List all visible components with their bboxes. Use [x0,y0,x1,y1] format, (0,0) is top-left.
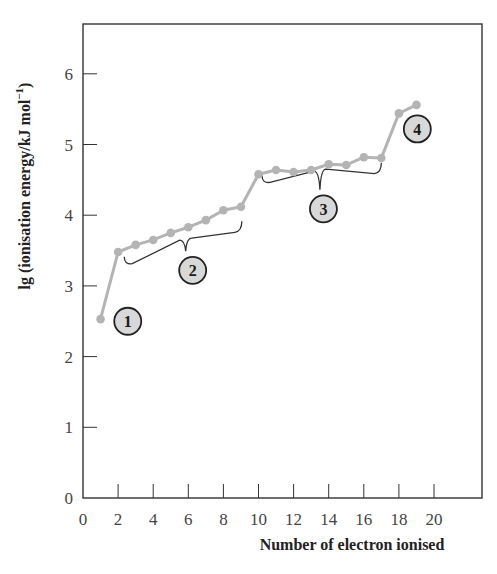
plot-frame [83,24,482,498]
bracket-annotations [124,163,381,264]
data-point-marker [395,109,404,118]
data-point-marker [412,101,421,110]
data-point-marker [96,315,105,324]
y-tick-label: 6 [65,65,74,84]
y-axis-ticks: 0123456 [65,65,98,508]
badge-1: 1 [114,308,141,335]
x-tick-label: 6 [184,510,193,529]
y-axis-title-superscript: −1 [13,88,25,100]
data-point-marker [184,223,193,232]
x-tick-label: 14 [320,510,338,529]
badge-label: 2 [189,262,197,279]
y-tick-label: 0 [65,489,74,508]
chart-canvas: 0123456 02468101214161820 1234 Number of… [0,0,497,574]
x-tick-label: 18 [390,510,407,529]
data-point-marker [272,166,281,175]
plot-border [83,24,482,498]
y-tick-label: 4 [65,206,74,225]
y-axis-title-close: ) [16,83,34,88]
y-tick-label: 5 [65,136,74,155]
data-point-marker [254,170,263,179]
x-tick-label: 2 [114,510,123,529]
y-axis-title: lg (ionisation energy/kJ mol−1) [13,83,34,290]
badge-label: 4 [413,121,421,138]
data-point-marker [202,216,211,225]
data-point-marker [377,154,386,163]
series-line [101,105,417,319]
data-point-marker [324,160,333,169]
badge-3: 3 [310,195,337,222]
data-point-marker [342,161,351,170]
numbered-badges: 1234 [114,115,431,334]
x-tick-label: 8 [219,510,228,529]
badge-4: 4 [404,115,431,142]
x-tick-label: 20 [426,510,443,529]
x-tick-label: 10 [250,510,267,529]
y-tick-label: 1 [65,418,74,437]
data-point-marker [360,153,369,162]
x-tick-label: 4 [149,510,158,529]
x-tick-label: 12 [285,510,302,529]
y-axis-title-main: lg (ionisation energy/kJ mol [16,99,34,289]
y-tick-label: 3 [65,277,74,296]
y-tick-label: 2 [65,348,74,367]
data-point-marker [219,206,228,215]
data-series [96,101,421,324]
data-point-marker [149,236,158,245]
data-point-marker [237,202,246,211]
data-point-marker [114,248,123,257]
x-tick-label: 0 [79,510,88,529]
data-point-marker [166,229,175,238]
data-point-marker [289,168,298,177]
data-point-marker [307,166,316,175]
badge-2: 2 [179,257,206,284]
badge-label: 3 [319,201,327,218]
x-tick-label: 16 [355,510,372,529]
badge-label: 1 [124,313,132,330]
x-axis-ticks: 02468101214161820 [79,484,443,529]
ionisation-energy-chart: 0123456 02468101214161820 1234 Number of… [0,0,497,574]
data-point-marker [131,241,140,250]
x-axis-title: Number of electron ionised [260,536,445,553]
